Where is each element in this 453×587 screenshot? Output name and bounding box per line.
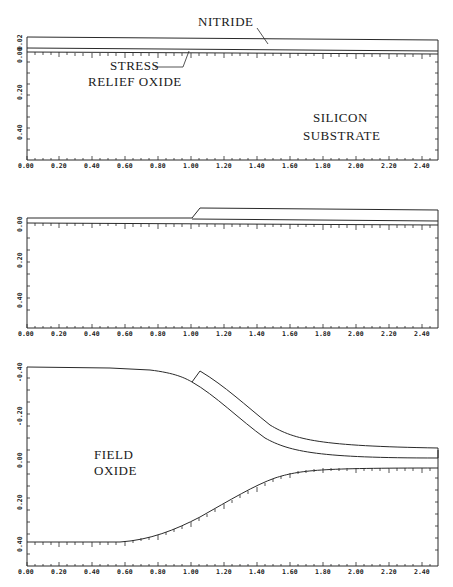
y-tick-labels: -0.40 -0.20 0.00 0.20 0.40: [16, 362, 24, 552]
silicon-surface: [27, 223, 438, 225]
silicon-label: SILICON: [313, 110, 368, 125]
nitride-layer: [192, 371, 438, 458]
svg-text:0.80: 0.80: [150, 568, 166, 576]
field-oxide-top: [27, 367, 438, 458]
svg-text:0.40: 0.40: [16, 536, 24, 552]
svg-text:0.40: 0.40: [84, 568, 100, 576]
svg-text:2.00: 2.00: [348, 162, 364, 170]
svg-text:0.00: 0.00: [18, 162, 34, 170]
panel-2: 0.00 0.20 0.40 0.60 0.80 1.00 1.20 1.40 …: [16, 208, 438, 338]
svg-text:0.00: 0.00: [18, 330, 34, 338]
svg-text:0.80: 0.80: [150, 162, 166, 170]
svg-text:0.40: 0.40: [84, 330, 100, 338]
svg-text:1.80: 1.80: [315, 330, 331, 338]
svg-text:1.40: 1.40: [249, 330, 265, 338]
svg-text:2.20: 2.20: [381, 162, 397, 170]
svg-text:1.60: 1.60: [282, 568, 298, 576]
svg-text:0.80: 0.80: [150, 330, 166, 338]
nitride-top: [192, 208, 438, 218]
x-tick-labels: 0.00 0.20 0.40 0.60 0.80 1.00 1.20 1.40 …: [18, 162, 430, 170]
nitride-top: [27, 37, 438, 40]
relief-oxide-label: RELIEF OXIDE: [88, 74, 182, 89]
silicon-surface: [27, 52, 438, 54]
nitride-leader: [257, 28, 268, 44]
svg-text:0.00: 0.00: [16, 452, 24, 468]
svg-text:0.40: 0.40: [84, 162, 100, 170]
svg-text:0.60: 0.60: [117, 330, 133, 338]
svg-text:1.40: 1.40: [249, 162, 265, 170]
svg-text:1.80: 1.80: [315, 162, 331, 170]
svg-text:1.00: 1.00: [183, 330, 199, 338]
x-tick-labels: 0.00 0.20 0.40 0.60 0.80 1.00 1.20 1.40 …: [18, 330, 430, 338]
stress-label: STRESS: [110, 58, 159, 73]
svg-text:-0.40: -0.40: [16, 362, 24, 382]
svg-text:1.00: 1.00: [183, 568, 199, 576]
svg-text:0.60: 0.60: [117, 162, 133, 170]
svg-text:0.20: 0.20: [16, 84, 24, 100]
svg-text:0.00: 0.00: [16, 216, 24, 232]
panel-3: 0.00 0.20 0.40 0.60 0.80 1.00 1.20 1.40 …: [16, 362, 438, 576]
svg-text:0.00: 0.00: [16, 47, 24, 63]
y-tick-labels: 0.00 0.20 0.40: [16, 216, 24, 308]
panel-1: 0.00 0.20 0.40 0.60 0.80 1.00 1.20 1.40 …: [16, 14, 438, 170]
nitride-bottom: [192, 219, 438, 221]
svg-text:1.60: 1.60: [282, 162, 298, 170]
svg-text:-0.20: -0.20: [16, 406, 24, 426]
nitride-label: NITRIDE: [198, 14, 254, 29]
svg-text:2.00: 2.00: [348, 330, 364, 338]
field-label: FIELD: [94, 447, 133, 462]
svg-text:0.40: 0.40: [16, 292, 24, 308]
svg-text:1.20: 1.20: [216, 162, 232, 170]
svg-text:1.20: 1.20: [216, 568, 232, 576]
x-tick-labels: 0.00 0.20 0.40 0.60 0.80 1.00 1.20 1.40 …: [18, 568, 430, 576]
stress-leader: [155, 51, 189, 67]
svg-text:0.00: 0.00: [18, 568, 34, 576]
svg-text:0.20: 0.20: [51, 162, 67, 170]
substrate-label: SUBSTRATE: [303, 128, 380, 143]
interface-ticks: [35, 468, 430, 547]
svg-text:1.80: 1.80: [315, 568, 331, 576]
oxide-label: OXIDE: [94, 463, 137, 478]
svg-text:2.40: 2.40: [414, 162, 430, 170]
oxide-silicon-interface: [27, 468, 438, 542]
svg-text:2.20: 2.20: [381, 330, 397, 338]
x-ticks: [27, 562, 430, 566]
svg-text:0.40: 0.40: [16, 124, 24, 140]
svg-text:2.40: 2.40: [414, 568, 430, 576]
svg-text:1.20: 1.20: [216, 330, 232, 338]
svg-text:2.00: 2.00: [348, 568, 364, 576]
nitride-oxide-interface: [27, 48, 438, 51]
svg-text:1.40: 1.40: [249, 568, 265, 576]
svg-text:2.40: 2.40: [414, 330, 430, 338]
svg-text:0.20: 0.20: [16, 494, 24, 510]
svg-text:2.20: 2.20: [381, 568, 397, 576]
svg-text:0.20: 0.20: [51, 568, 67, 576]
svg-text:1.00: 1.00: [183, 162, 199, 170]
svg-text:0.60: 0.60: [117, 568, 133, 576]
svg-text:0.20: 0.20: [51, 330, 67, 338]
svg-text:0.20: 0.20: [16, 252, 24, 268]
x-ticks: [27, 324, 430, 328]
svg-text:1.60: 1.60: [282, 330, 298, 338]
x-ticks: [27, 156, 430, 160]
y-tick-labels: 0.02 0.00 0.20 0.40: [16, 34, 24, 140]
locos-process-diagram: 0.00 0.20 0.40 0.60 0.80 1.00 1.20 1.40 …: [0, 0, 453, 587]
